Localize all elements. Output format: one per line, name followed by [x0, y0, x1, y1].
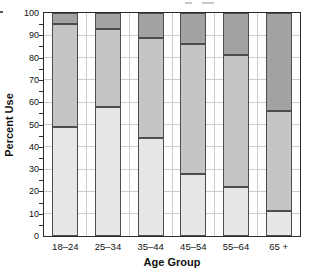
y-tick-label: 50 [13, 120, 39, 130]
y-axis-tick [39, 113, 43, 114]
y-axis-tick [39, 102, 43, 103]
bar-segment-segment-top-dark [180, 13, 206, 44]
y-tick-label: 80 [13, 53, 39, 63]
x-category-label: 45–54 [172, 241, 215, 253]
y-axis-tick [39, 80, 43, 81]
y-axis-tick [39, 203, 43, 204]
bar-segment-segment-top-dark [223, 13, 249, 55]
y-axis-tick [39, 136, 43, 137]
x-category-label: 25–34 [87, 241, 130, 253]
bar-segment-segment-bottom-light [138, 138, 164, 236]
y-axis-tick [39, 91, 43, 92]
y-tick-label: 0 [13, 231, 39, 241]
y-tick-label: 40 [13, 142, 39, 152]
y-axis-tick [39, 180, 43, 181]
bar-segment-segment-middle-medium [223, 55, 249, 187]
x-category-label: 35–44 [129, 241, 172, 253]
y-tick-label: 20 [13, 186, 39, 196]
y-axis-tick [39, 225, 43, 226]
bar-segment-segment-bottom-light [180, 174, 206, 236]
y-tick-label: 90 [13, 30, 39, 40]
bar-segment-segment-middle-medium [180, 44, 206, 173]
x-category-label: 65 + [257, 241, 300, 253]
bar-segment-segment-bottom-light [223, 187, 249, 236]
y-axis-tick [39, 35, 43, 36]
y-axis-tick [39, 214, 43, 215]
bar-segment-segment-bottom-light [266, 211, 292, 236]
y-axis-tick [39, 169, 43, 170]
y-axis-tick [39, 69, 43, 70]
x-category-label: 55–64 [215, 241, 258, 253]
bar-segment-segment-middle-medium [138, 38, 164, 138]
bar-segment-segment-top-dark [266, 13, 292, 111]
gridline-vertical [129, 13, 130, 236]
y-tick-label: 30 [13, 164, 39, 174]
x-category-label: 18–24 [44, 241, 87, 253]
gridline-vertical [86, 13, 87, 236]
gridline-vertical [257, 13, 258, 236]
y-tick-label: 70 [13, 75, 39, 85]
bar-segment-segment-bottom-light [52, 127, 78, 236]
gridline-vertical [172, 13, 173, 236]
x-axis-title: Age Group [43, 255, 301, 269]
bar-segment-segment-middle-medium [95, 29, 121, 107]
gridline-vertical [214, 13, 215, 236]
y-tick-label: 10 [13, 209, 39, 219]
bar-segment-segment-top-dark [95, 13, 121, 29]
y-axis-tick [39, 191, 43, 192]
y-axis-tick [39, 24, 43, 25]
y-axis-tick [39, 147, 43, 148]
y-axis-tick [39, 46, 43, 47]
y-axis-tick [39, 158, 43, 159]
stacked-bar-chart-figure: Percent Use Age Group 010203040506070809… [0, 0, 313, 274]
bar-segment-segment-middle-medium [266, 111, 292, 211]
y-tick-label: 60 [13, 97, 39, 107]
y-axis-tick [39, 58, 43, 59]
cropped-text-remnant [185, 2, 192, 4]
y-tick-label: 100 [13, 8, 39, 18]
cropped-text-remnant [202, 2, 214, 4]
bar-segment-segment-middle-medium [52, 24, 78, 127]
plot-area [43, 12, 301, 237]
bar-segment-segment-top-dark [138, 13, 164, 38]
bar-segment-segment-bottom-light [95, 107, 121, 236]
bar-segment-segment-top-dark [52, 13, 78, 24]
y-axis-tick [39, 125, 43, 126]
